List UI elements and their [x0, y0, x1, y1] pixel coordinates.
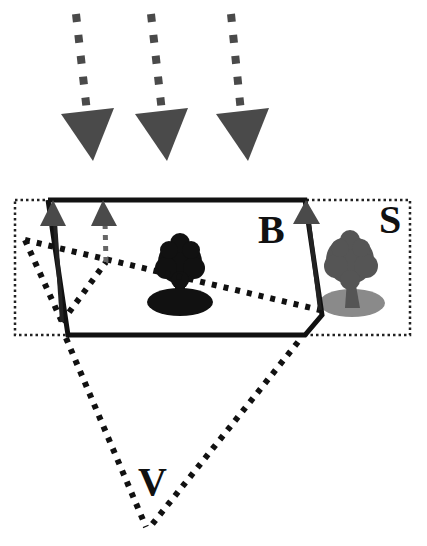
incoming-arrow-1	[61, 14, 114, 161]
ray-up-dotted	[105, 222, 106, 262]
view-cone	[66, 338, 298, 527]
label-scene: S	[379, 197, 401, 242]
incoming-arrow-3	[216, 14, 269, 161]
reflected-arrowhead-3	[293, 200, 320, 224]
incoming-arrow-2	[135, 14, 188, 161]
reflected-arrowhead-2	[91, 200, 117, 226]
label-view: V	[138, 459, 167, 504]
reflected-arrowhead-1	[40, 200, 66, 226]
diagram-canvas: B S V	[0, 0, 427, 546]
ray-right-solid	[309, 222, 320, 310]
label-building: B	[258, 207, 285, 252]
tree-scene-icon	[319, 230, 385, 317]
